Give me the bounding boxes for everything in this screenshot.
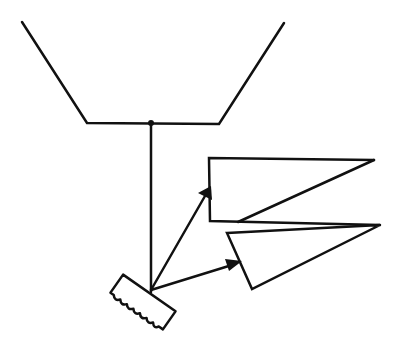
funnel-shape: [22, 22, 284, 124]
upper-wedge-diagonal: [238, 160, 374, 222]
diagram-canvas: [0, 0, 401, 348]
arrowhead-lower-icon: [225, 259, 242, 271]
lower-wedge-shape: [227, 225, 380, 289]
source-block: [109, 275, 175, 332]
junction-dot: [148, 120, 154, 126]
